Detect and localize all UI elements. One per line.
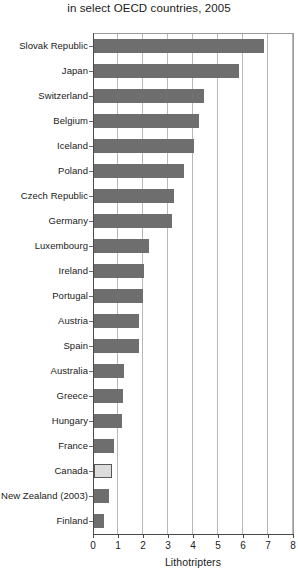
bar bbox=[94, 339, 139, 353]
bar-category-label: Spain bbox=[0, 333, 88, 359]
bar-row: Germany bbox=[0, 208, 298, 234]
bar bbox=[94, 189, 174, 203]
x-axis-tick-label: 4 bbox=[181, 539, 205, 552]
y-axis-tick bbox=[89, 471, 93, 472]
x-axis-tick bbox=[143, 534, 144, 538]
y-axis-tick bbox=[89, 96, 93, 97]
x-axis-tick bbox=[93, 534, 94, 538]
x-axis-tick-label: 6 bbox=[231, 539, 255, 552]
bar-category-label: Finland bbox=[0, 508, 88, 534]
bar-row: Iceland bbox=[0, 133, 298, 159]
x-axis-title: Lithotripters bbox=[93, 555, 293, 569]
bar bbox=[94, 389, 123, 403]
bar-category-label: Australia bbox=[0, 358, 88, 384]
bar-row: Switzerland bbox=[0, 83, 298, 109]
bar bbox=[94, 139, 194, 153]
y-axis-tick bbox=[89, 496, 93, 497]
y-axis-tick bbox=[89, 271, 93, 272]
bar-row: Ireland bbox=[0, 258, 298, 284]
bar bbox=[94, 64, 239, 78]
bar-category-label: New Zealand (2003) bbox=[0, 483, 88, 509]
x-axis-tick bbox=[118, 534, 119, 538]
bar-category-label: Greece bbox=[0, 383, 88, 409]
bar-category-label: Portugal bbox=[0, 283, 88, 309]
x-axis-tick-label: 3 bbox=[156, 539, 180, 552]
bar-row: Spain bbox=[0, 333, 298, 359]
bar bbox=[94, 214, 172, 228]
x-axis-tick bbox=[218, 534, 219, 538]
bar bbox=[94, 364, 124, 378]
x-axis-tick bbox=[243, 534, 244, 538]
bar-row: Czech Republic bbox=[0, 183, 298, 209]
bar-row: Luxembourg bbox=[0, 233, 298, 259]
bar-category-label: Belgium bbox=[0, 108, 88, 134]
bar-category-label: Iceland bbox=[0, 133, 88, 159]
bar bbox=[94, 439, 114, 453]
x-axis-tick bbox=[168, 534, 169, 538]
y-axis-tick bbox=[89, 121, 93, 122]
y-axis-tick bbox=[89, 146, 93, 147]
y-axis-tick bbox=[89, 296, 93, 297]
bar-category-label: Luxembourg bbox=[0, 233, 88, 259]
y-axis-tick bbox=[89, 421, 93, 422]
y-axis-tick bbox=[89, 221, 93, 222]
bar bbox=[94, 289, 143, 303]
bar bbox=[94, 239, 149, 253]
bar-category-label: Canada bbox=[0, 458, 88, 484]
bar bbox=[94, 39, 264, 53]
bar-category-label: France bbox=[0, 433, 88, 459]
bar bbox=[94, 464, 112, 478]
y-axis-tick bbox=[89, 196, 93, 197]
bar-category-label: Poland bbox=[0, 158, 88, 184]
x-axis-tick-label: 7 bbox=[256, 539, 280, 552]
y-axis-tick bbox=[89, 321, 93, 322]
y-axis-tick bbox=[89, 46, 93, 47]
bar bbox=[94, 114, 199, 128]
bar bbox=[94, 89, 204, 103]
bar-category-label: Hungary bbox=[0, 408, 88, 434]
bar-row: Poland bbox=[0, 158, 298, 184]
y-axis-tick bbox=[89, 446, 93, 447]
x-axis-tick bbox=[268, 534, 269, 538]
bar-category-label: Japan bbox=[0, 58, 88, 84]
bar-row: Japan bbox=[0, 58, 298, 84]
x-axis-tick-label: 2 bbox=[131, 539, 155, 552]
x-axis-tick-label: 1 bbox=[106, 539, 130, 552]
bar bbox=[94, 314, 139, 328]
y-axis-tick bbox=[89, 171, 93, 172]
bar bbox=[94, 264, 144, 278]
bar-row: Finland bbox=[0, 508, 298, 534]
y-axis-tick bbox=[89, 521, 93, 522]
bar-row: Belgium bbox=[0, 108, 298, 134]
bar-row: Hungary bbox=[0, 408, 298, 434]
bar bbox=[94, 164, 184, 178]
y-axis-tick bbox=[89, 346, 93, 347]
x-axis-tick-label: 5 bbox=[206, 539, 230, 552]
bar-row: Greece bbox=[0, 383, 298, 409]
y-axis-tick bbox=[89, 396, 93, 397]
bar-row: Slovak Republic bbox=[0, 33, 298, 59]
y-axis-tick bbox=[89, 246, 93, 247]
bar bbox=[94, 414, 122, 428]
y-axis-tick bbox=[89, 71, 93, 72]
bar-row: Austria bbox=[0, 308, 298, 334]
x-axis-tick-label: 8 bbox=[281, 539, 298, 552]
y-axis-tick bbox=[89, 371, 93, 372]
bar-row: France bbox=[0, 433, 298, 459]
bar-category-label: Austria bbox=[0, 308, 88, 334]
bar bbox=[94, 489, 109, 503]
x-axis-tick-label: 0 bbox=[81, 539, 105, 552]
bar-category-label: Switzerland bbox=[0, 83, 88, 109]
x-axis-tick bbox=[293, 534, 294, 538]
bar-category-label: Germany bbox=[0, 208, 88, 234]
bar-category-label: Slovak Republic bbox=[0, 33, 88, 59]
bar-row: New Zealand (2003) bbox=[0, 483, 298, 509]
bar-row: Portugal bbox=[0, 283, 298, 309]
bar-category-label: Ireland bbox=[0, 258, 88, 284]
bar-row: Canada bbox=[0, 458, 298, 484]
bar-chart: Slovak RepublicJapanSwitzerlandBelgiumIc… bbox=[0, 0, 298, 574]
bar-category-label: Czech Republic bbox=[0, 183, 88, 209]
bar-row: Australia bbox=[0, 358, 298, 384]
bar bbox=[94, 514, 104, 528]
x-axis-tick bbox=[193, 534, 194, 538]
